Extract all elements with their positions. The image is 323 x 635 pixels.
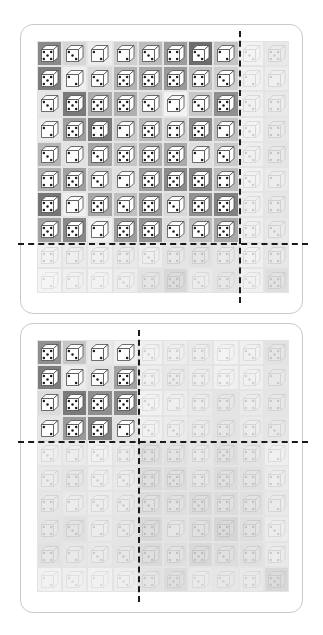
dice-cell[interactable]: [87, 91, 112, 116]
dice-cell[interactable]: [188, 416, 213, 441]
dice-cell[interactable]: [188, 542, 213, 567]
dice-cell[interactable]: [138, 91, 163, 116]
dice-cell[interactable]: [264, 491, 289, 516]
dice-cell[interactable]: [188, 217, 213, 242]
dice-cell[interactable]: [62, 567, 87, 592]
dice-cell[interactable]: [213, 117, 238, 142]
dice-cell[interactable]: [138, 491, 163, 516]
dice-cell[interactable]: [37, 217, 62, 242]
dice-cell[interactable]: [163, 117, 188, 142]
dice-cell[interactable]: [37, 416, 62, 441]
dice-cell[interactable]: [264, 340, 289, 365]
dice-cell[interactable]: [87, 243, 112, 268]
dice-cell[interactable]: [138, 243, 163, 268]
dice-cell[interactable]: [62, 390, 87, 415]
dice-cell[interactable]: [87, 491, 112, 516]
dice-cell[interactable]: [213, 365, 238, 390]
dice-cell[interactable]: [62, 542, 87, 567]
dice-cell[interactable]: [264, 516, 289, 541]
dice-cell[interactable]: [138, 66, 163, 91]
dice-cell[interactable]: [37, 390, 62, 415]
dice-cell[interactable]: [62, 66, 87, 91]
dice-cell[interactable]: [87, 268, 112, 293]
dice-cell[interactable]: [213, 466, 238, 491]
dice-cell[interactable]: [163, 192, 188, 217]
dice-cell[interactable]: [113, 567, 138, 592]
dice-cell[interactable]: [188, 142, 213, 167]
dice-cell[interactable]: [113, 142, 138, 167]
dice-cell[interactable]: [163, 516, 188, 541]
dice-cell[interactable]: [213, 441, 238, 466]
dice-cell[interactable]: [37, 340, 62, 365]
dice-cell[interactable]: [87, 542, 112, 567]
dice-cell[interactable]: [138, 416, 163, 441]
dice-cell[interactable]: [188, 41, 213, 66]
dice-cell[interactable]: [138, 41, 163, 66]
dice-cell[interactable]: [113, 542, 138, 567]
dice-cell[interactable]: [239, 41, 264, 66]
dice-cell[interactable]: [37, 66, 62, 91]
dice-cell[interactable]: [37, 192, 62, 217]
dice-cell[interactable]: [188, 491, 213, 516]
dice-cell[interactable]: [239, 192, 264, 217]
dice-cell[interactable]: [213, 91, 238, 116]
dice-cell[interactable]: [188, 466, 213, 491]
dice-cell[interactable]: [37, 542, 62, 567]
dice-cell[interactable]: [239, 340, 264, 365]
dice-cell[interactable]: [37, 268, 62, 293]
dice-cell[interactable]: [62, 192, 87, 217]
dice-cell[interactable]: [62, 491, 87, 516]
dice-cell[interactable]: [138, 142, 163, 167]
dice-cell[interactable]: [62, 91, 87, 116]
dice-cell[interactable]: [188, 390, 213, 415]
dice-cell[interactable]: [37, 41, 62, 66]
dice-cell[interactable]: [87, 217, 112, 242]
dice-cell[interactable]: [138, 441, 163, 466]
dice-cell[interactable]: [113, 192, 138, 217]
dice-cell[interactable]: [138, 340, 163, 365]
dice-cell[interactable]: [62, 340, 87, 365]
dice-cell[interactable]: [113, 66, 138, 91]
dice-cell[interactable]: [213, 243, 238, 268]
dice-cell[interactable]: [188, 243, 213, 268]
dice-cell[interactable]: [239, 542, 264, 567]
dice-cell[interactable]: [239, 365, 264, 390]
dice-cell[interactable]: [87, 142, 112, 167]
dice-cell[interactable]: [239, 390, 264, 415]
dice-cell[interactable]: [87, 192, 112, 217]
dice-cell[interactable]: [163, 167, 188, 192]
dice-cell[interactable]: [213, 41, 238, 66]
dice-cell[interactable]: [138, 167, 163, 192]
dice-cell[interactable]: [113, 365, 138, 390]
dice-cell[interactable]: [62, 416, 87, 441]
dice-cell[interactable]: [62, 117, 87, 142]
dice-cell[interactable]: [239, 167, 264, 192]
dice-cell[interactable]: [87, 41, 112, 66]
dice-cell[interactable]: [138, 217, 163, 242]
dice-cell[interactable]: [213, 542, 238, 567]
dice-cell[interactable]: [163, 243, 188, 268]
dice-cell[interactable]: [163, 365, 188, 390]
dice-cell[interactable]: [213, 390, 238, 415]
dice-cell[interactable]: [113, 217, 138, 242]
dice-cell[interactable]: [37, 491, 62, 516]
dice-cell[interactable]: [264, 390, 289, 415]
dice-cell[interactable]: [264, 117, 289, 142]
dice-cell[interactable]: [62, 441, 87, 466]
dice-cell[interactable]: [138, 268, 163, 293]
dice-cell[interactable]: [188, 167, 213, 192]
dice-cell[interactable]: [264, 466, 289, 491]
dice-cell[interactable]: [264, 416, 289, 441]
dice-cell[interactable]: [213, 66, 238, 91]
dice-cell[interactable]: [213, 217, 238, 242]
dice-cell[interactable]: [113, 466, 138, 491]
dice-cell[interactable]: [188, 567, 213, 592]
dice-cell[interactable]: [87, 340, 112, 365]
dice-cell[interactable]: [37, 117, 62, 142]
dice-cell[interactable]: [62, 217, 87, 242]
dice-cell[interactable]: [113, 340, 138, 365]
dice-cell[interactable]: [239, 91, 264, 116]
dice-cell[interactable]: [113, 390, 138, 415]
dice-cell[interactable]: [113, 91, 138, 116]
dice-cell[interactable]: [188, 66, 213, 91]
